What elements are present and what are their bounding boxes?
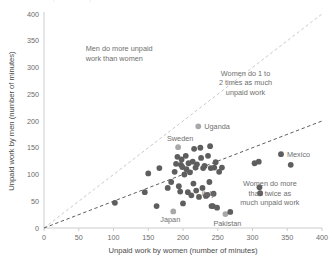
data-point[interactable] (194, 161, 200, 167)
data-point[interactable] (176, 183, 182, 189)
data-point-highlighted[interactable] (175, 144, 181, 150)
data-point[interactable] (193, 188, 199, 194)
data-point[interactable] (256, 159, 262, 165)
chart-canvas: 0501001502002503003504000501001502002503… (0, 0, 332, 264)
x-tick-label: 200 (177, 233, 189, 242)
data-point[interactable] (207, 179, 213, 185)
data-point[interactable] (112, 200, 118, 206)
data-point[interactable] (211, 165, 217, 171)
data-point[interactable] (168, 179, 174, 185)
data-point[interactable] (214, 205, 220, 211)
y-tick-label: 0 (35, 224, 39, 233)
data-point[interactable] (154, 203, 160, 209)
y-tick-label: 100 (27, 170, 39, 179)
data-point[interactable] (227, 209, 233, 215)
data-point[interactable] (213, 159, 219, 165)
data-point[interactable] (156, 165, 162, 171)
data-point[interactable] (177, 189, 183, 195)
data-point[interactable] (219, 165, 225, 171)
y-tick-label: 350 (27, 36, 39, 45)
twice-annotation: Women do morethan twice asmuch unpaid wo… (240, 179, 300, 207)
data-point[interactable] (180, 200, 186, 206)
point-label-japan: Japan (160, 215, 180, 224)
y-axis-title: Unpaid work by men (number of minutes) (7, 51, 16, 191)
point-label-italy: Italy (202, 189, 216, 198)
x-tick-label: 250 (212, 233, 224, 242)
data-point-highlighted[interactable] (195, 123, 201, 129)
data-point[interactable] (165, 185, 171, 191)
data-point[interactable] (145, 171, 151, 177)
data-point[interactable] (188, 192, 194, 198)
x-tick-label: 0 (42, 233, 46, 242)
data-point-highlighted[interactable] (170, 209, 176, 215)
point-label-mexico: Mexico (287, 150, 310, 159)
data-point[interactable] (288, 162, 294, 168)
data-point[interactable] (205, 153, 211, 159)
cropped-title-text: Unpaid work by women and men (44, 0, 274, 2)
data-point[interactable] (191, 146, 197, 152)
data-point[interactable] (197, 145, 203, 151)
data-point[interactable] (278, 151, 284, 157)
y-tick-label: 50 (31, 197, 39, 206)
point-label-sweden: Sweden (167, 134, 193, 143)
y-tick-label: 400 (27, 10, 39, 19)
x-tick-label: 300 (247, 233, 259, 242)
y-tick-label: 250 (27, 90, 39, 99)
x-tick-label: 50 (75, 233, 83, 242)
point-label-uganda: Uganda (204, 122, 231, 131)
one-to-two-annotation: Women do 1 to2 times as muchunpaid work (219, 69, 272, 97)
x-tick-label: 150 (142, 233, 154, 242)
y-tick-label: 150 (27, 143, 39, 152)
x-tick-label: 400 (316, 233, 328, 242)
scatter-chart: Unpaid work by women and men 05010015020… (0, 0, 332, 264)
men-more-annotation: Men do more unpaidwork than women (85, 44, 153, 63)
data-point[interactable] (183, 153, 189, 159)
data-point[interactable] (173, 161, 179, 167)
data-point[interactable] (198, 155, 204, 161)
point-label-pakistan: Pakistan (213, 219, 241, 228)
x-tick-label: 100 (108, 233, 120, 242)
data-point[interactable] (202, 163, 208, 169)
data-point[interactable] (142, 189, 148, 195)
y-tick-label: 300 (27, 63, 39, 72)
data-point[interactable] (191, 181, 197, 187)
x-tick-label: 350 (281, 233, 293, 242)
data-point[interactable] (207, 143, 213, 149)
data-point[interactable] (181, 172, 187, 178)
x-axis-title: Unpaid work by women (number of minutes) (109, 246, 258, 255)
y-tick-label: 200 (27, 117, 39, 126)
data-point[interactable] (172, 169, 178, 175)
data-point[interactable] (187, 169, 193, 175)
